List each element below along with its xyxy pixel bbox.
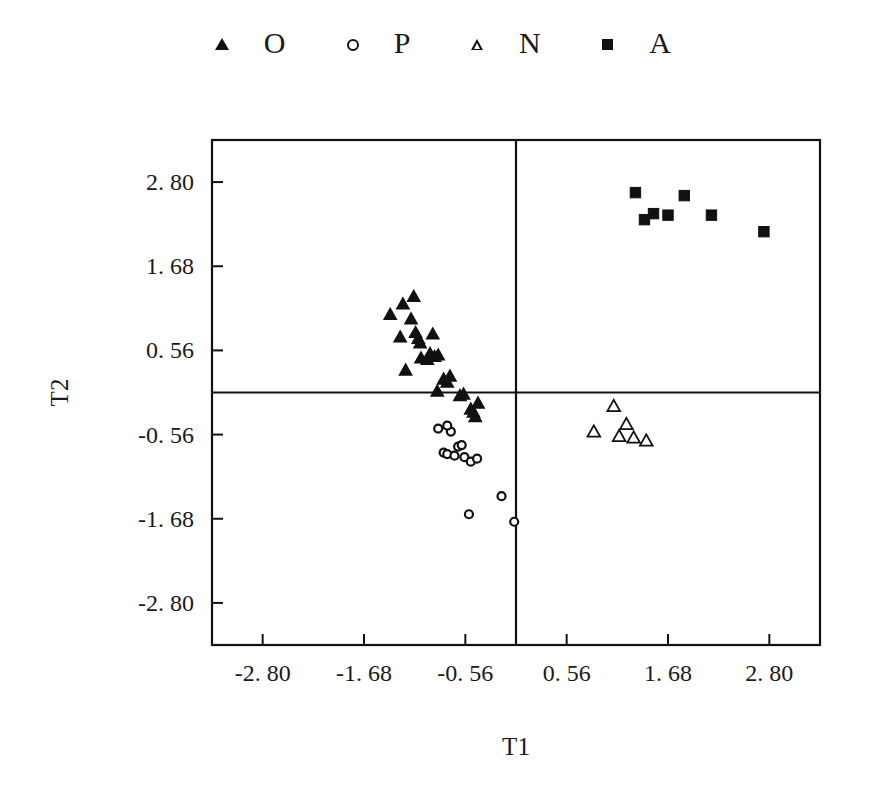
series-n [587,400,652,446]
data-point-n [620,418,633,429]
data-point-n [587,425,600,436]
data-points-group [384,187,769,525]
data-point-a [639,214,649,224]
x-axis-title: T1 [502,733,530,760]
x-axis-tick-label: -2. 80 [235,660,291,686]
data-point-n [627,431,640,442]
data-point-p [498,492,506,500]
data-point-o [384,308,397,319]
y-axis-tick-label: 1. 68 [146,253,194,279]
y-axis-title: T2 [46,379,73,407]
data-point-p [473,455,481,463]
y-axis-tick-label: -1. 68 [138,506,194,532]
zero-lines-group [212,140,820,645]
scatter-plot-figure: O P N A -2. 80-1. 68-0. 560. 561. 682. 8… [0,0,885,797]
y-axis-tick-label: 0. 56 [146,337,194,363]
axis-titles-group: T1T2 [46,379,530,760]
x-axis-tick-label: -1. 68 [336,660,392,686]
x-axis-tick-label: 0. 56 [543,660,591,686]
data-point-n [607,400,620,411]
series-p [434,422,518,526]
data-point-p [443,422,451,430]
data-point-n [613,430,626,441]
data-point-a [630,187,640,197]
series-a [630,187,769,236]
data-point-p [458,441,466,449]
data-point-o [426,328,439,339]
data-point-a [759,226,769,236]
data-point-a [679,190,689,200]
x-axis-tick-label: 2. 80 [745,660,793,686]
y-axis-tick-label: -0. 56 [138,422,194,448]
data-point-p [465,510,473,518]
series-o [384,290,484,422]
x-axis-tick-label: -0. 56 [437,660,493,686]
y-axis-tick-label: -2. 80 [138,590,194,616]
data-point-o [407,290,420,301]
ticks-group [212,182,769,645]
tick-labels-group: -2. 80-1. 68-0. 560. 561. 682. 80-2. 80-… [138,169,793,686]
data-point-a [663,210,673,220]
data-point-p [510,518,518,526]
data-point-p [434,425,442,433]
data-point-o [394,331,407,342]
x-axis-tick-label: 1. 68 [644,660,692,686]
data-point-o [405,313,418,324]
data-point-o [399,364,412,375]
plot-canvas: -2. 80-1. 68-0. 560. 561. 682. 80-2. 80-… [0,0,885,797]
data-point-a [706,210,716,220]
data-point-o [397,298,410,309]
y-axis-tick-label: 2. 80 [146,169,194,195]
data-point-n [640,434,653,445]
data-point-p [450,452,458,460]
